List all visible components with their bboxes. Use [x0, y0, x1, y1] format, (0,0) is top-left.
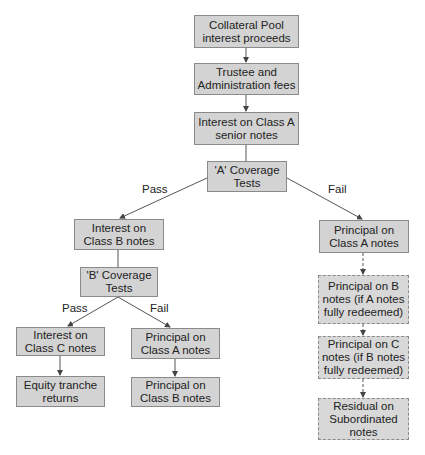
node-label: Interest on Class A senior notes [198, 116, 295, 142]
node-principal-class-a-mid: Principal on Class A notes [131, 328, 220, 359]
edge-label-b-pass: Pass [62, 302, 88, 314]
node-coverage-b: 'B' Coverage Tests [80, 267, 158, 297]
node-collateral-pool: Collateral Pool interest proceeds [194, 15, 299, 48]
node-interest-class-c: Interest on Class C notes [16, 327, 105, 356]
node-label: Principal on Class A notes [141, 331, 211, 357]
node-label: 'B' Coverage Tests [86, 269, 151, 295]
node-principal-c-if-b-redeemed: Principal on C notes (if B notes fully r… [318, 336, 409, 379]
node-principal-class-b-mid: Principal on Class B notes [131, 377, 220, 407]
node-label: Interest on Class B notes [84, 222, 155, 248]
edge-label-b-fail: Fail [150, 302, 169, 314]
node-residual-subordinated: Residual on Subordinated notes [318, 398, 409, 440]
node-label: Equity tranche returns [24, 379, 98, 405]
edge-label-a-pass: Pass [142, 183, 168, 195]
edge-label-a-fail: Fail [328, 183, 347, 195]
node-coverage-a: 'A' Coverage Tests [207, 161, 287, 192]
node-interest-class-b: Interest on Class B notes [74, 219, 164, 250]
node-principal-b-if-a-redeemed: Principal on B notes (if A notes fully r… [318, 275, 409, 324]
node-label: Interest on Class C notes [25, 329, 97, 355]
node-equity-tranche: Equity tranche returns [16, 376, 105, 407]
node-label: Residual on Subordinated notes [329, 400, 397, 439]
node-principal-class-a-right: Principal on Class A notes [319, 220, 409, 253]
node-label: Principal on Class B notes [140, 379, 211, 405]
node-label: Principal on B notes (if A notes fully r… [323, 280, 405, 319]
node-trustee-fees: Trustee and Administration fees [194, 63, 299, 95]
node-label: 'A' Coverage Tests [214, 164, 279, 190]
node-label: Trustee and Administration fees [198, 66, 296, 92]
node-label: Principal on C notes (if B notes fully r… [322, 338, 405, 377]
node-interest-class-a: Interest on Class A senior notes [194, 112, 299, 145]
node-label: Principal on Class A notes [329, 224, 399, 250]
node-label: Collateral Pool interest proceeds [202, 19, 290, 45]
